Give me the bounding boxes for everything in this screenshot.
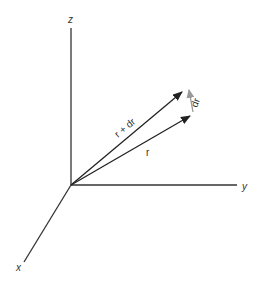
dr-label: dr	[189, 96, 203, 109]
z-axis-label: z	[67, 14, 73, 25]
r-plus-dr-label: r + dr	[112, 115, 138, 139]
vector-diagram: z y x r + dr r dr	[0, 0, 261, 286]
r-plus-dr-vector	[71, 92, 182, 185]
x-axis-label: x	[15, 262, 22, 273]
x-axis	[24, 185, 71, 262]
r-label: r	[146, 147, 150, 158]
y-axis-label: y	[241, 181, 248, 192]
